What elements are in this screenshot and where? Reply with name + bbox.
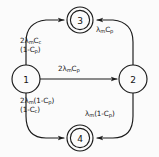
paren-close: )	[37, 105, 40, 114]
edge-label-1-to-4: 2λm(1-Cp) (1-Cc)	[20, 97, 54, 114]
node-4-label: 4	[77, 134, 83, 144]
edge-label-1-to-2: 2λmCp	[58, 65, 80, 74]
node-3-label: 3	[77, 16, 83, 26]
paren-close: )	[38, 45, 41, 54]
paren-open: (1-C	[94, 109, 109, 118]
state-transition-diagram: 1 2 3 4 2λmCc (1-Cp) λmCp 2λmCp 2λm(1-Cp…	[0, 0, 159, 157]
edge-label-1-to-4-line2: (1-Cc)	[20, 106, 54, 115]
edge-label-1-to-3-line2: (1-Cp)	[20, 46, 41, 55]
edge-label-1-to-3: 2λmCc (1-Cp)	[20, 37, 41, 54]
paren-close: )	[112, 109, 115, 118]
paren-open: (1-C	[20, 105, 35, 114]
coverage-subscript: p	[110, 28, 113, 34]
edge-label-2-to-3: λmCp	[96, 26, 113, 35]
diagram-canvas: 1 2 3 4	[0, 0, 159, 157]
edge-label-2-to-4: λm(1-Cp)	[85, 110, 115, 119]
coverage-subscript: p	[77, 67, 80, 73]
paren-open: (1-C	[20, 45, 35, 54]
node-2-label: 2	[130, 75, 136, 85]
paren-open: (1-C	[34, 96, 49, 105]
paren-close: )	[51, 96, 54, 105]
node-1-label: 1	[23, 75, 29, 85]
